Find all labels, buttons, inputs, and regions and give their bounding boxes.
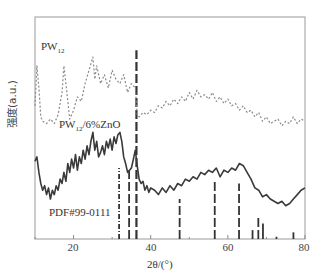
- reference-label: PDF#99-0111: [49, 206, 111, 218]
- series-pw12-zno: [35, 132, 305, 205]
- x-tick-20: 20: [68, 241, 79, 253]
- x-axis-label: 2θ/(°): [147, 258, 173, 270]
- x-axis-ticks: [35, 235, 305, 239]
- y-axis-label: 强度(a.u.): [4, 80, 19, 128]
- series-label-pw12-zno: PW12/6%ZnO: [59, 118, 120, 133]
- series-label-pw12: PW12: [41, 40, 65, 55]
- x-tick-40: 40: [146, 241, 157, 253]
- label-text: PW: [41, 40, 58, 52]
- reference-lines: [119, 50, 293, 239]
- x-tick-80: 80: [299, 241, 310, 253]
- label-subscript: 12: [58, 47, 65, 55]
- label-text: PW: [59, 118, 76, 130]
- x-tick-60: 60: [223, 241, 234, 253]
- label-tail: /6%ZnO: [83, 118, 121, 130]
- series-pw12: [35, 57, 305, 126]
- label-subscript: 12: [76, 125, 83, 133]
